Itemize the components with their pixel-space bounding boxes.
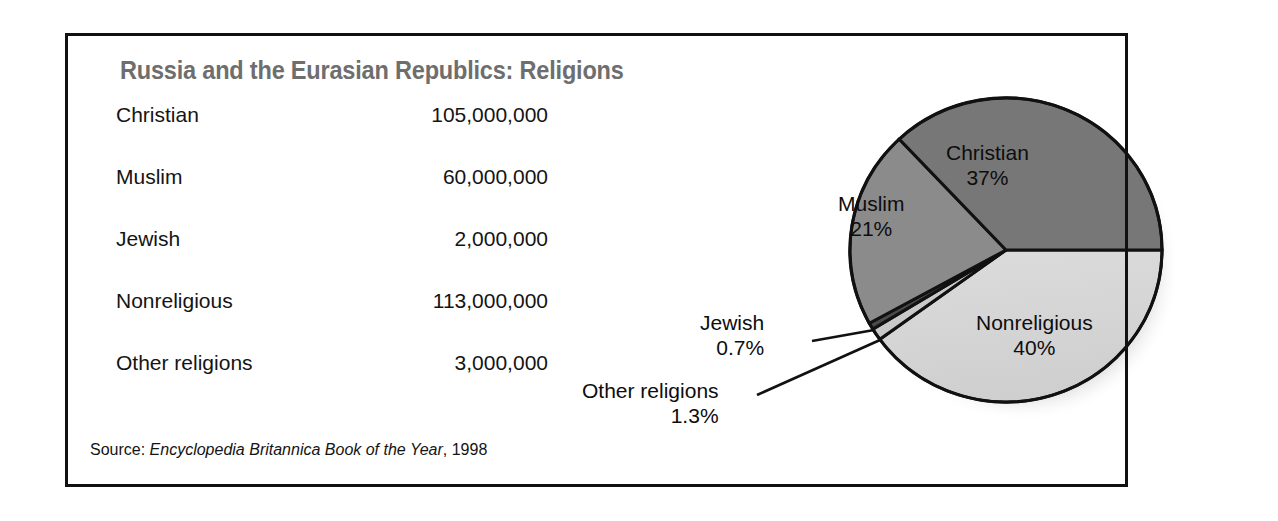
row-value: 113,000,000 [328, 289, 548, 313]
table-row: Jewish 2,000,000 [116, 227, 548, 289]
row-value: 105,000,000 [328, 103, 548, 127]
table-row: Nonreligious 113,000,000 [116, 289, 548, 351]
row-label: Other religions [116, 351, 328, 375]
source-citation: Source: Encyclopedia Britannica Book of … [90, 441, 487, 459]
row-value: 60,000,000 [328, 165, 548, 189]
row-label: Muslim [116, 165, 328, 189]
row-label: Jewish [116, 227, 328, 251]
row-label: Christian [116, 103, 328, 127]
pie-label-muslim-pct: 21% [838, 217, 905, 242]
pie-label-muslim-name: Muslim [838, 192, 905, 215]
pie-label-jewish-pct: 0.7% [700, 336, 764, 361]
table-row: Christian 105,000,000 [116, 103, 548, 165]
row-value: 3,000,000 [328, 351, 548, 375]
row-label: Nonreligious [116, 289, 328, 313]
pie-label-other-religions: Other religions 1.3% [582, 379, 719, 429]
table-row: Muslim 60,000,000 [116, 165, 548, 227]
pie-label-nonreligious-name: Nonreligious [976, 311, 1093, 334]
figure-root: Russia and the Eurasian Republics: Relig… [0, 0, 1278, 521]
source-year: , 1998 [443, 441, 487, 458]
pie-label-other-religions-name: Other religions [582, 379, 719, 402]
pie-label-christian-name: Christian [946, 141, 1029, 164]
pie-label-jewish: Jewish 0.7% [700, 311, 764, 361]
pie-label-nonreligious-pct: 40% [976, 336, 1093, 361]
pie-label-muslim: Muslim 21% [838, 192, 905, 242]
pie-label-christian: Christian 37% [946, 141, 1029, 191]
chart-title: Russia and the Eurasian Republics: Relig… [120, 56, 624, 85]
table-row: Other religions 3,000,000 [116, 351, 548, 413]
pie-label-christian-pct: 37% [946, 166, 1029, 191]
pie-label-jewish-name: Jewish [700, 311, 764, 334]
row-value: 2,000,000 [328, 227, 548, 251]
pie-label-other-religions-pct: 1.3% [582, 404, 719, 429]
source-publication: Encyclopedia Britannica Book of the Year [150, 441, 443, 458]
pie-label-nonreligious: Nonreligious 40% [976, 311, 1093, 361]
source-label: Source: [90, 441, 150, 458]
religion-data-table: Christian 105,000,000 Muslim 60,000,000 … [116, 103, 548, 413]
